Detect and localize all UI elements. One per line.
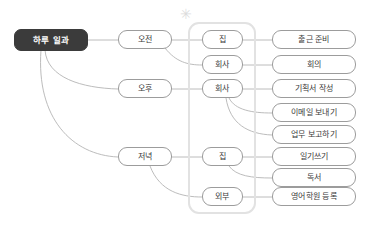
node-task-commute-prep-label: 출근 준비 <box>298 36 329 44</box>
node-place-home-1-label: 집 <box>219 36 226 44</box>
node-place-office-2-label: 회사 <box>215 85 229 93</box>
node-task-send-email[interactable]: 이메일 보내기 <box>272 103 356 122</box>
node-place-office-2[interactable]: 회사 <box>202 79 243 98</box>
node-task-commute-prep[interactable]: 출근 준비 <box>272 30 356 49</box>
node-task-proposal-label: 기획서 작성 <box>295 85 333 93</box>
node-task-reading[interactable]: 독서 <box>272 168 356 187</box>
node-task-meeting-label: 회의 <box>307 61 321 69</box>
node-time-evening-label: 저녁 <box>138 153 152 161</box>
node-time-evening[interactable]: 저녁 <box>118 147 172 166</box>
node-place-home-2[interactable]: 집 <box>202 147 243 166</box>
node-time-morning-label: 오전 <box>138 36 152 44</box>
location-group-box <box>188 22 256 214</box>
node-task-proposal[interactable]: 기획서 작성 <box>272 79 356 98</box>
node-task-english-academy-label: 영어학원 등록 <box>291 193 336 201</box>
asterisk-marker: ✳ <box>180 7 192 21</box>
node-task-report-label: 업무 보고하기 <box>291 131 336 139</box>
node-task-english-academy[interactable]: 영어학원 등록 <box>272 187 356 206</box>
node-time-afternoon-label: 오후 <box>138 85 152 93</box>
node-task-report[interactable]: 업무 보고하기 <box>272 125 356 144</box>
edge-root-to-evening <box>41 50 118 157</box>
node-place-home-2-label: 집 <box>219 153 226 161</box>
node-place-outside[interactable]: 외부 <box>202 187 243 206</box>
node-place-office-1-label: 회사 <box>215 61 229 69</box>
edge-root-to-afternoon <box>45 50 118 89</box>
mindmap-canvas: ✳ 하루 일과 오전 오후 저녁 집 회사 회사 집 외부 출근 준비 회의 기… <box>0 0 373 228</box>
node-time-morning[interactable]: 오전 <box>118 30 172 49</box>
node-task-diary[interactable]: 일기쓰기 <box>272 147 356 166</box>
node-task-reading-label: 독서 <box>307 174 321 182</box>
node-place-home-1[interactable]: 집 <box>202 30 243 49</box>
node-task-meeting[interactable]: 회의 <box>272 55 356 74</box>
node-task-send-email-label: 이메일 보내기 <box>291 109 336 117</box>
node-time-afternoon[interactable]: 오후 <box>118 79 172 98</box>
node-root-label: 하루 일과 <box>33 36 68 45</box>
node-place-outside-label: 외부 <box>215 193 229 201</box>
node-root-daily-routine[interactable]: 하루 일과 <box>14 29 88 51</box>
node-place-office-1[interactable]: 회사 <box>202 55 243 74</box>
node-task-diary-label: 일기쓰기 <box>300 153 328 161</box>
